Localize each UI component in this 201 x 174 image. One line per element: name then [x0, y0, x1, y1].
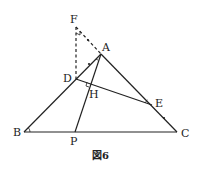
label-a: A [101, 41, 111, 54]
segment-de [76, 79, 152, 105]
angle-mark-a [96, 59, 98, 60]
tick-ec [163, 117, 165, 119]
label-f: F [70, 13, 78, 26]
label-h: H [89, 88, 99, 101]
segment-ac [101, 54, 177, 132]
label-b: B [13, 126, 21, 139]
figure-caption: 図6 [92, 150, 109, 161]
label-c: C [181, 127, 189, 140]
label-p: P [70, 135, 78, 148]
tick-fa [87, 39, 89, 41]
tick-ad [88, 63, 90, 65]
geometry-figure: F A D H E B C P 図6 [0, 0, 201, 174]
label-d: D [63, 72, 72, 85]
label-e: E [155, 97, 163, 110]
